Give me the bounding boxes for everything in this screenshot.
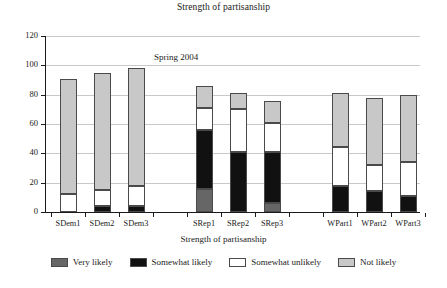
y-tick-mark [41, 183, 45, 184]
bar-segment [400, 196, 417, 212]
bar-segment [230, 152, 247, 212]
y-tick-mark [41, 95, 45, 96]
bar-segment [196, 130, 213, 189]
legend-swatch-icon [51, 258, 68, 267]
bar-wpart3[interactable] [400, 36, 417, 212]
bar-segment [60, 194, 77, 212]
x-tick-mark [187, 213, 188, 217]
bar-srep1[interactable] [196, 36, 213, 212]
x-tick-mark [357, 213, 358, 217]
bar-wpart2[interactable] [366, 36, 383, 212]
y-tick-mark [41, 153, 45, 154]
x-tick-label-wpart3: WPart3 [395, 219, 420, 228]
legend-label: Not likely [360, 257, 396, 267]
x-tick-label-wpart1: WPart1 [327, 219, 352, 228]
bar-sdem2[interactable] [94, 36, 111, 212]
legend-swatch-icon [338, 258, 355, 267]
bar-segment [400, 162, 417, 196]
bar-segment [128, 186, 145, 207]
bar-segment [366, 191, 383, 212]
x-tick-mark [323, 213, 324, 217]
bar-segment [264, 152, 281, 203]
bar-segment [128, 68, 145, 185]
bar-segment [332, 147, 349, 185]
y-tick-label: 20 [12, 178, 38, 187]
legend-label: Somewhat likely [152, 257, 213, 267]
x-tick-mark [255, 213, 256, 217]
y-tick-label: 60 [12, 119, 38, 128]
x-axis-line [45, 212, 420, 213]
y-tick-mark [41, 36, 45, 37]
x-tick-label-sdem1: SDem1 [56, 219, 81, 228]
bar-segment [94, 190, 111, 206]
legend-item[interactable]: Not likely [338, 257, 396, 267]
bar-segment [332, 93, 349, 147]
y-tick-label: 120 [12, 31, 38, 40]
y-tick-mark [41, 212, 45, 213]
bar-segment [264, 123, 281, 152]
chart-legend: Very likelySomewhat likelySomewhat unlik… [0, 257, 447, 267]
y-tick-mark [41, 124, 45, 125]
x-tick-mark [51, 213, 52, 217]
bar-segment [196, 189, 213, 212]
bar-sdem3[interactable] [128, 36, 145, 212]
legend-label: Somewhat unlikely [251, 257, 321, 267]
x-tick-label-srep2: SRep2 [227, 219, 249, 228]
x-tick-mark [425, 213, 426, 217]
bar-sdem1[interactable] [60, 36, 77, 212]
bar-srep2[interactable] [230, 36, 247, 212]
y-tick-label: 80 [12, 90, 38, 99]
bar-segment [400, 95, 417, 162]
bar-segment [230, 93, 247, 109]
x-tick-label-srep3: SRep3 [261, 219, 283, 228]
x-tick-mark [153, 213, 154, 217]
legend-item[interactable]: Somewhat unlikely [229, 257, 321, 267]
x-tick-mark [289, 213, 290, 217]
x-tick-mark [85, 213, 86, 217]
x-tick-label-sdem3: SDem3 [124, 219, 149, 228]
bar-srep3[interactable] [264, 36, 281, 212]
y-tick-label: 100 [12, 60, 38, 69]
figure: Strength of partisanship Spring 2004 020… [0, 0, 447, 288]
legend-swatch-icon [130, 258, 147, 267]
bar-segment [60, 79, 77, 195]
chart-annotation: Spring 2004 [154, 52, 198, 62]
y-tick-mark [41, 65, 45, 66]
legend-item[interactable]: Very likely [51, 257, 113, 267]
bar-segment [366, 165, 383, 191]
x-tick-label-sdem2: SDem2 [90, 219, 115, 228]
bar-segment [94, 73, 111, 190]
x-tick-mark [391, 213, 392, 217]
y-axis-line [45, 36, 46, 213]
bar-segment [366, 98, 383, 165]
plot-area: Spring 2004 [46, 36, 420, 212]
bar-segment [196, 108, 213, 130]
legend-label: Very likely [73, 257, 113, 267]
bar-segment [332, 186, 349, 212]
bar-wpart1[interactable] [332, 36, 349, 212]
legend-swatch-icon [229, 258, 246, 267]
x-tick-label-wpart2: WPart2 [361, 219, 386, 228]
chart-title: Strength of partisanship [0, 2, 447, 12]
legend-item[interactable]: Somewhat likely [130, 257, 213, 267]
x-tick-mark [119, 213, 120, 217]
x-axis-title: Strength of partisanship [0, 234, 447, 244]
y-tick-label: 40 [12, 148, 38, 157]
bar-segment [196, 86, 213, 108]
x-tick-mark [221, 213, 222, 217]
y-tick-label: 0 [12, 207, 38, 216]
bar-segment [264, 101, 281, 123]
bar-segment [230, 109, 247, 152]
bar-segment [264, 203, 281, 212]
x-tick-label-srep1: SRep1 [193, 219, 215, 228]
